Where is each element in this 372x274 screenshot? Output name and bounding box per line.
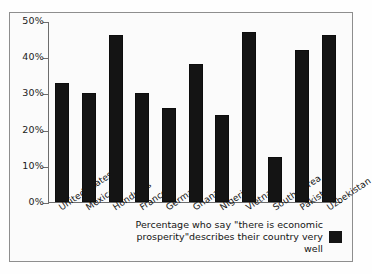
bar-slot: [156, 22, 183, 202]
chart-legend: Percentage who say "there is economic pr…: [120, 219, 342, 255]
bar-slot: [49, 22, 76, 202]
plot-area: 50%40%30%20%10%0%: [48, 22, 342, 203]
bar-series: [49, 22, 342, 202]
legend-color-swatch: [329, 231, 342, 243]
legend-label-line1: Percentage who say "there is economic: [120, 219, 323, 231]
y-axis-tick-label: 0%: [14, 196, 44, 207]
bar-slot: [315, 22, 342, 202]
bar-slot: [129, 22, 156, 202]
y-axis-tick-label: 10%: [14, 160, 44, 171]
bar-slot: [182, 22, 209, 202]
bar-slot: [209, 22, 236, 202]
y-axis-tick-label: 20%: [14, 124, 44, 135]
bar: [55, 83, 69, 202]
y-axis-tick-label: 40%: [14, 51, 44, 62]
legend-label-line2: prosperity"describes their country very …: [120, 231, 323, 255]
y-axis-tick-label: 50%: [14, 15, 44, 26]
bar-slot: [235, 22, 262, 202]
y-axis-tick-label: 30%: [14, 87, 44, 98]
bar: [242, 32, 256, 202]
bar-slot: [262, 22, 289, 202]
bar-slot: [289, 22, 316, 202]
chart-container: 50%40%30%20%10%0% United StatesMexicoHon…: [9, 12, 353, 262]
legend-label: Percentage who say "there is economic pr…: [120, 219, 323, 255]
bar: [322, 35, 336, 202]
